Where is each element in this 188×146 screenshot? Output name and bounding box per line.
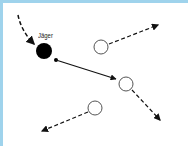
hunter-incoming-arrow xyxy=(18,15,34,44)
hunter-node xyxy=(36,43,52,59)
prey-2-escape-arrow xyxy=(132,90,160,120)
prey-node-1 xyxy=(94,40,108,54)
hunter-label: Jäger xyxy=(38,32,53,39)
prey-1-escape-arrow xyxy=(109,25,158,44)
prey-3-escape-arrow xyxy=(42,112,88,131)
pursuit-arrow xyxy=(56,60,116,79)
prey-node-3 xyxy=(88,101,102,115)
pursuit-diagram xyxy=(0,0,188,146)
prey-node-2 xyxy=(119,77,133,91)
